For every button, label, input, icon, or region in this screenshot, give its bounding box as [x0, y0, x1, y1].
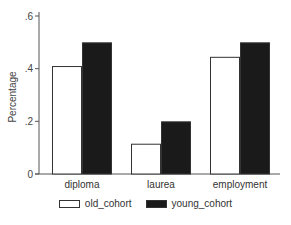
y-tick-label: .4 — [25, 63, 34, 74]
legend-swatch — [146, 200, 167, 208]
x-category-label: employment — [213, 179, 268, 190]
legend-item-young_cohort: young_cohort — [146, 198, 233, 209]
bar-young_cohort-laurea — [162, 122, 191, 174]
legend-label: old_cohort — [85, 198, 132, 209]
y-tick-label: 0 — [27, 169, 33, 180]
x-category-label: laurea — [147, 179, 175, 190]
y-tick-label: .2 — [25, 116, 34, 127]
x-axis-labels: diplomalaureaemployment — [64, 179, 267, 190]
legend-label: young_cohort — [172, 198, 233, 209]
y-axis-label: Percentage — [7, 71, 18, 123]
bar-young_cohort-employment — [241, 43, 270, 174]
bar-young_cohort-diploma — [83, 43, 112, 174]
bars — [53, 43, 270, 174]
y-tick-label: .6 — [25, 11, 34, 22]
x-category-label: diploma — [64, 179, 99, 190]
bar-old_cohort-laurea — [132, 144, 161, 174]
bar-chart: 0.2.4.6 diplomalaureaemployment Percenta… — [0, 0, 291, 225]
legend-swatch — [59, 200, 80, 208]
legend-item-old_cohort: old_cohort — [59, 198, 132, 209]
bar-old_cohort-employment — [211, 57, 240, 174]
bar-old_cohort-diploma — [53, 67, 82, 174]
legend: old_cohortyoung_cohort — [0, 198, 291, 209]
